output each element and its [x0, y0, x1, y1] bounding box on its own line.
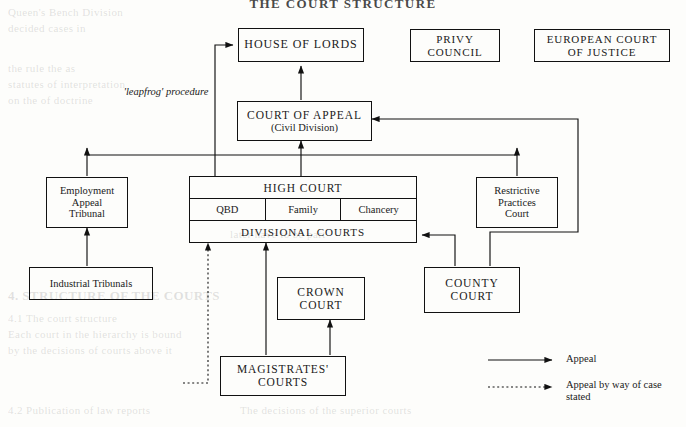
box-house-of-lords[interactable]: HOUSE OF LORDS	[238, 28, 364, 62]
box-county-court[interactable]: COUNTY COURT	[424, 267, 520, 313]
ghost-text: 4.2 Publication of law reports	[8, 404, 150, 416]
box-european-court-of-justice[interactable]: EUROPEAN COURT OF JUSTICE	[534, 29, 670, 62]
box-crown-court-line2: COURT	[297, 299, 344, 312]
box-crown-court-line1: CROWN	[297, 286, 344, 299]
box-high-court-block[interactable]: HIGH COURT QBD Family Chancery DIVISIONA…	[189, 176, 417, 243]
box-restrictive-practices-court-line1: Restrictive	[494, 185, 540, 197]
box-magistrates-courts-line1: MAGISTRATES'	[237, 363, 329, 376]
leapfrog-label-line2: procedure	[166, 86, 208, 97]
ghost-text: on the of doctrine	[8, 94, 93, 106]
box-restrictive-practices-court[interactable]: Restrictive Practices Court	[476, 177, 558, 228]
court-structure-diagram: Queen's Bench Division decided cases in …	[0, 0, 686, 427]
box-employment-appeal-tribunal-line1: Employment	[60, 185, 114, 197]
wire-magistrates-courts-case-stated-to-divisional-courts	[183, 243, 208, 383]
box-divisional-courts[interactable]: DIVISIONAL COURTS	[190, 221, 416, 243]
box-employment-appeal-tribunal-line3: Tribunal	[60, 208, 114, 220]
box-privy-council[interactable]: PRIVY COUNCIL	[410, 29, 500, 62]
box-employment-appeal-tribunal[interactable]: Employment Appeal Tribunal	[46, 177, 128, 228]
box-privy-council-line1: PRIVY	[427, 33, 482, 45]
ghost-text: statutes of interpretation	[8, 78, 125, 90]
ghost-text: 4.1 The court structure	[8, 312, 117, 324]
box-employment-appeal-tribunal-line2: Appeal	[60, 197, 114, 209]
wire-leapfrog-high-court-to-house-of-lords	[215, 45, 233, 176]
box-high-court-title: HIGH COURT	[190, 177, 416, 199]
box-privy-council-line2: COUNCIL	[427, 46, 482, 58]
box-magistrates-courts-line2: COURTS	[237, 376, 329, 389]
ghost-text: decided cases in	[8, 22, 86, 34]
ghost-text: Each court in the hierarchy is bound	[8, 328, 182, 340]
box-european-court-of-justice-line1: EUROPEAN COURT	[547, 33, 658, 45]
high-court-divisions-row: QBD Family Chancery	[190, 199, 416, 221]
box-court-of-appeal-line1: COURT OF APPEAL	[247, 109, 362, 122]
high-court-division-chancery[interactable]: Chancery	[341, 199, 416, 220]
ghost-text: by the decisions of courts above it	[8, 344, 172, 356]
box-county-court-line2: COURT	[445, 290, 498, 303]
box-court-of-appeal[interactable]: COURT OF APPEAL (Civil Division)	[237, 101, 372, 141]
leapfrog-procedure-label: 'leapfrog' procedure	[118, 86, 214, 99]
box-magistrates-courts[interactable]: MAGISTRATES' COURTS	[220, 356, 346, 396]
box-industrial-tribunals-label: Industrial Tribunals	[50, 278, 133, 290]
box-house-of-lords-label: HOUSE OF LORDS	[244, 38, 357, 51]
page-title: THE COURT STRUCTURE	[0, 0, 686, 12]
box-crown-court[interactable]: CROWN COURT	[277, 277, 365, 320]
box-county-court-line1: COUNTY	[445, 277, 498, 290]
wire-county-court-to-divisional-courts	[422, 235, 455, 266]
box-industrial-tribunals[interactable]: Industrial Tribunals	[29, 267, 153, 300]
box-court-of-appeal-line2: (Civil Division)	[247, 122, 362, 134]
legend-appeal-label: Appeal	[566, 353, 596, 365]
box-restrictive-practices-court-line2: Practices	[494, 197, 540, 209]
legend-case-stated-line1: Appeal by way	[566, 379, 630, 390]
box-restrictive-practices-court-line3: Court	[494, 208, 540, 220]
ghost-text: the rule the as	[8, 62, 75, 74]
leapfrog-label-line1: 'leapfrog'	[124, 86, 164, 97]
legend-case-stated-label: Appeal by way of case stated	[566, 379, 686, 404]
high-court-division-qbd[interactable]: QBD	[190, 199, 266, 220]
high-court-division-family[interactable]: Family	[266, 199, 342, 220]
ghost-text: The decisions of the superior courts	[240, 404, 412, 416]
box-european-court-of-justice-line2: OF JUSTICE	[547, 46, 658, 58]
